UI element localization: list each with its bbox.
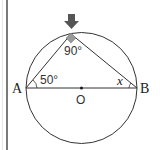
point-label-a: A xyxy=(12,81,23,96)
geometry-diagram: 90° 50° x A B O xyxy=(0,0,160,150)
angle-arc-a xyxy=(33,80,37,88)
angle-label-50: 50° xyxy=(40,73,58,87)
angle-label-90: 90° xyxy=(64,44,82,58)
chord-bc xyxy=(71,34,137,88)
angle-arc-b xyxy=(129,83,131,88)
down-arrow-icon xyxy=(64,14,79,29)
center-point xyxy=(80,86,83,89)
point-label-o: O xyxy=(76,93,85,107)
angle-label-x: x xyxy=(116,73,123,88)
point-label-b: B xyxy=(140,81,149,96)
